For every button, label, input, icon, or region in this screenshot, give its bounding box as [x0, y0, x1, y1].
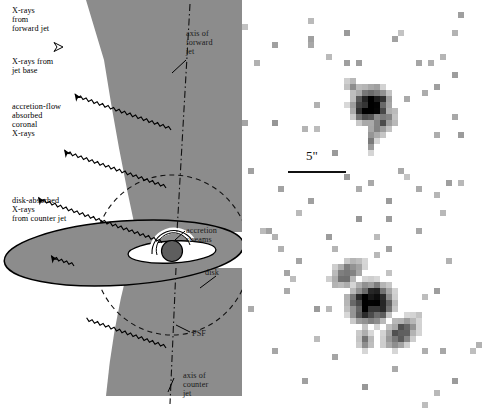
- xray-pixel: [350, 282, 356, 288]
- xray-pixel: [242, 120, 248, 126]
- xray-pixel: [356, 60, 362, 66]
- xray-pixel: [392, 366, 398, 372]
- xray-pixel: [368, 180, 374, 186]
- xray-pixel: [350, 78, 356, 84]
- xray-pixel: [374, 96, 380, 102]
- xray-pixel: [314, 102, 320, 108]
- xray-pixel: [374, 282, 380, 288]
- forward-jet-cone: [86, 0, 242, 232]
- xray-pixel: [338, 270, 344, 276]
- xray-pixel: [362, 276, 368, 282]
- xray-pixel: [386, 282, 392, 288]
- xray-pixel: [398, 336, 404, 342]
- xray-pixel: [374, 252, 380, 258]
- xray-pixel: [386, 114, 392, 120]
- xray-pixel: [356, 288, 362, 294]
- xray-pixel: [368, 102, 374, 108]
- xray-pixel: [374, 114, 380, 120]
- xray-pixel: [398, 168, 404, 174]
- xray-pixel: [428, 60, 434, 66]
- xray-pixel: [404, 96, 410, 102]
- xray-pixel: [356, 294, 362, 300]
- xray-pixel: [368, 276, 374, 282]
- label-counter-jet-xrays: disk-absorbed X-rays from counter jet: [12, 196, 66, 223]
- xray-pixel: [440, 54, 446, 60]
- xray-pixel: [290, 276, 296, 282]
- xray-pixel: [404, 174, 410, 180]
- xray-pixel: [332, 270, 338, 276]
- xray-pixel: [368, 288, 374, 294]
- xray-pixel: [356, 96, 362, 102]
- xray-pixel: [440, 348, 446, 354]
- label-forward-jet-xrays: X-rays from forward jet: [12, 6, 49, 33]
- xray-pixel: [350, 276, 356, 282]
- xray-pixel: [410, 312, 416, 318]
- xray-pixel: [380, 312, 386, 318]
- xray-pixel: [356, 90, 362, 96]
- xray-pixel: [452, 72, 458, 78]
- xray-pixel: [272, 234, 278, 240]
- xray-pixel: [356, 102, 362, 108]
- xray-pixel: [356, 270, 362, 276]
- xray-pixel: [356, 306, 362, 312]
- xray-pixel: [392, 36, 398, 42]
- xray-pixel: [338, 282, 344, 288]
- xray-pixel: [458, 12, 464, 18]
- xray-pixel: [392, 324, 398, 330]
- xray-pixel: [392, 300, 398, 306]
- xray-pixel: [362, 306, 368, 312]
- xray-pixel: [344, 282, 350, 288]
- xray-pixel: [452, 30, 458, 36]
- xray-pixel: [386, 198, 392, 204]
- xray-pixel: [374, 276, 380, 282]
- xray-pixel: [452, 114, 458, 120]
- xray-pixel: [362, 102, 368, 108]
- xray-pixel: [338, 264, 344, 270]
- xray-pixel: [434, 390, 440, 396]
- xray-pixel: [362, 300, 368, 306]
- xray-pixel: [344, 258, 350, 264]
- xray-pixel: [362, 312, 368, 318]
- xray-pixel: [356, 264, 362, 270]
- xray-pixel: [356, 318, 362, 324]
- xray-pixel: [380, 294, 386, 300]
- xray-pixel: [386, 294, 392, 300]
- xray-pixel: [266, 228, 272, 234]
- xray-pixel: [332, 150, 338, 156]
- xray-pixel: [392, 120, 398, 126]
- xray-pixel: [362, 294, 368, 300]
- xray-pixel: [368, 330, 374, 336]
- xray-pixel: [386, 126, 392, 132]
- xray-pixel: [392, 294, 398, 300]
- xray-pixel: [368, 336, 374, 342]
- xray-pixel: [344, 60, 350, 66]
- xray-pixel: [452, 378, 458, 384]
- xray-pixel: [368, 138, 374, 144]
- xray-pixel: [410, 336, 416, 342]
- xray-pixel: [350, 318, 356, 324]
- xray-pixel: [344, 312, 350, 318]
- xray-pixel: [440, 210, 446, 216]
- xray-pixel: [386, 336, 392, 342]
- xray-pixel: [248, 168, 254, 174]
- xray-pixel: [386, 96, 392, 102]
- xray-pixel: [380, 90, 386, 96]
- xray-pixel: [278, 246, 284, 252]
- xray-pixel: [350, 114, 356, 120]
- xray-pixel: [404, 312, 410, 318]
- xray-pixel: [368, 318, 374, 324]
- xray-pixel: [260, 228, 266, 234]
- xray-pixel: [374, 294, 380, 300]
- xray-pixel: [386, 102, 392, 108]
- xray-pixel: [368, 294, 374, 300]
- xray-pixel: [386, 300, 392, 306]
- label-axis-forward-jet: axis of forward jet: [186, 29, 213, 56]
- label-accretion-streams: accretion streams: [186, 226, 217, 244]
- xray-pixel: [356, 336, 362, 342]
- xray-pixel: [380, 108, 386, 114]
- xray-pixel: [350, 102, 356, 108]
- xray-pixel: [344, 300, 350, 306]
- xray-pixel: [380, 342, 386, 348]
- xray-pixel: [362, 84, 368, 90]
- xray-pixel: [296, 210, 302, 216]
